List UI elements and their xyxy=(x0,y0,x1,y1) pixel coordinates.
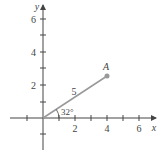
vector-segment xyxy=(43,76,107,118)
x-tick-label-2: 2 xyxy=(73,123,78,134)
x-tick-label-6: 6 xyxy=(137,123,142,134)
angle-arc xyxy=(56,110,59,119)
coordinate-diagram: 2 4 6 2 4 6 x y A 5 32° xyxy=(0,0,164,155)
x-axis-label: x xyxy=(151,122,157,133)
length-label: 5 xyxy=(72,86,77,97)
point-a xyxy=(105,74,110,79)
angle-label: 32° xyxy=(61,107,74,117)
y-tick-label-6: 6 xyxy=(31,14,36,25)
x-tick-label-4: 4 xyxy=(105,123,110,134)
y-tick-label-4: 4 xyxy=(31,47,36,58)
endpoint-label: A xyxy=(102,61,110,72)
y-tick-label-2: 2 xyxy=(31,80,36,91)
y-axis-label: y xyxy=(34,1,40,12)
